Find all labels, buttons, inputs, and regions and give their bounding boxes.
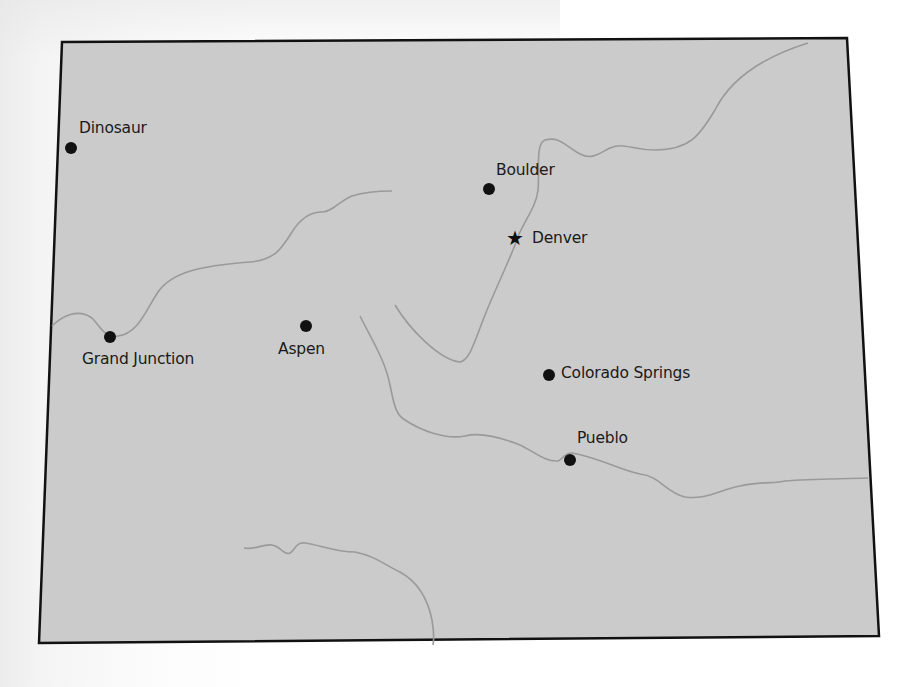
colorado-map [0, 0, 919, 687]
city-label-pueblo[interactable]: Pueblo [577, 429, 628, 447]
city-label-aspen[interactable]: Aspen [278, 340, 325, 358]
city-label-grand-junction[interactable]: Grand Junction [82, 350, 194, 368]
city-dot-icon[interactable] [300, 320, 312, 332]
capital-label-denver[interactable]: Denver [532, 229, 587, 247]
city-dot-icon[interactable] [104, 331, 116, 343]
city-label-boulder[interactable]: Boulder [496, 161, 555, 179]
city-dot-icon[interactable] [483, 183, 495, 195]
map-page: Dinosaur Boulder ★ Denver Grand Junction… [0, 0, 919, 687]
city-dot-icon[interactable] [543, 369, 555, 381]
city-dot-icon[interactable] [65, 142, 77, 154]
star-icon[interactable]: ★ [506, 228, 524, 248]
city-dot-icon[interactable] [564, 454, 576, 466]
city-label-colorado-springs[interactable]: Colorado Springs [561, 364, 690, 382]
state-border [39, 38, 879, 643]
city-label-dinosaur[interactable]: Dinosaur [79, 119, 147, 137]
